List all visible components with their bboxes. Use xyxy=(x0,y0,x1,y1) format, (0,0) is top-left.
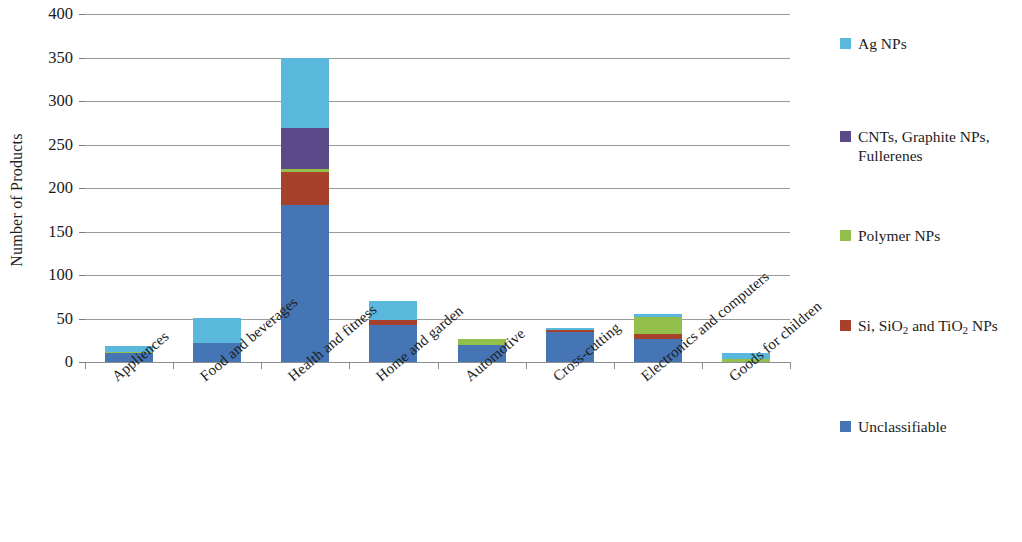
legend-swatch xyxy=(840,320,851,331)
y-tick-mark xyxy=(79,319,85,320)
legend-label: Ag NPs xyxy=(858,34,907,53)
legend-swatch xyxy=(840,131,851,142)
x-tick-mark xyxy=(702,362,703,369)
legend-swatch xyxy=(840,421,851,432)
gridline xyxy=(85,275,790,276)
legend-item[interactable]: CNTs, Graphite NPs,Fullerenes xyxy=(840,127,990,165)
y-tick-label: 50 xyxy=(27,309,73,329)
y-tick-mark xyxy=(79,145,85,146)
x-tick-mark xyxy=(614,362,615,369)
gridline xyxy=(85,188,790,189)
legend-label: Polymer NPs xyxy=(858,226,940,245)
bar-segment xyxy=(281,205,329,362)
x-tick-mark xyxy=(261,362,262,369)
gridline xyxy=(85,58,790,59)
bar-segment xyxy=(281,128,329,169)
y-tick-label: 0 xyxy=(27,352,73,372)
legend-item[interactable]: Polymer NPs xyxy=(840,226,940,245)
legend-item[interactable]: Ag NPs xyxy=(840,34,907,53)
y-tick-label: 100 xyxy=(27,265,73,285)
bar-segment xyxy=(281,58,329,128)
gridline xyxy=(85,232,790,233)
legend-item[interactable]: Unclassifiable xyxy=(840,417,947,436)
gridline xyxy=(85,14,790,15)
x-tick-mark xyxy=(790,362,791,369)
y-tick-mark xyxy=(79,101,85,102)
y-tick-mark xyxy=(79,188,85,189)
legend-label: CNTs, Graphite NPs,Fullerenes xyxy=(858,127,990,165)
y-tick-label: 300 xyxy=(27,91,73,111)
y-tick-label: 250 xyxy=(27,135,73,155)
y-tick-label: 150 xyxy=(27,222,73,242)
y-tick-label: 400 xyxy=(27,4,73,24)
x-tick-mark xyxy=(526,362,527,369)
y-tick-mark xyxy=(79,58,85,59)
y-tick-mark xyxy=(79,275,85,276)
bar-segment xyxy=(193,318,241,343)
legend-label: Si, SiO2 and TiO2 NPs xyxy=(858,316,998,337)
stacked-bar-chart: Number of Products 050100150200250300350… xyxy=(0,0,1022,542)
gridline xyxy=(85,101,790,102)
bar-segment xyxy=(281,172,329,204)
y-tick-mark xyxy=(79,14,85,15)
bar-segment xyxy=(634,317,682,334)
legend-swatch xyxy=(840,38,851,49)
x-tick-mark xyxy=(438,362,439,369)
legend-label: Unclassifiable xyxy=(858,417,947,436)
y-tick-label: 200 xyxy=(27,178,73,198)
x-tick-mark xyxy=(173,362,174,369)
x-tick-mark xyxy=(349,362,350,369)
y-axis-title: Number of Products xyxy=(8,90,26,310)
y-tick-mark xyxy=(79,232,85,233)
legend-swatch xyxy=(840,230,851,241)
gridline xyxy=(85,145,790,146)
x-tick-mark xyxy=(85,362,86,369)
legend-item[interactable]: Si, SiO2 and TiO2 NPs xyxy=(840,316,998,337)
y-tick-label: 350 xyxy=(27,48,73,68)
plot-area xyxy=(85,14,790,362)
